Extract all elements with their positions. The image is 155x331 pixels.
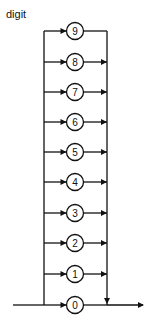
digit-label: 2 xyxy=(72,238,78,249)
merge-arrow-icon xyxy=(104,298,110,304)
digit-label: 5 xyxy=(72,147,78,158)
branch-out-arrow-icon xyxy=(101,89,107,95)
digit-label: 0 xyxy=(72,300,78,311)
branch-in-arrow-icon xyxy=(61,179,67,185)
branch-out-arrow-icon xyxy=(101,271,107,277)
branch-in-arrow-icon xyxy=(61,59,67,65)
syntax-diagram: 9876543210 xyxy=(0,0,155,331)
branch-in-arrow-icon xyxy=(61,302,67,308)
branch-out-arrow-icon xyxy=(101,149,107,155)
digit-label: 4 xyxy=(72,177,78,188)
digit-label: 1 xyxy=(72,269,78,280)
branch-out-arrow-icon xyxy=(101,179,107,185)
digit-label: 6 xyxy=(72,117,78,128)
digit-label: 3 xyxy=(72,208,78,219)
branch-in-arrow-icon xyxy=(61,149,67,155)
branch-out-arrow-icon xyxy=(101,59,107,65)
exit-arrow-icon xyxy=(138,302,144,308)
branch-in-arrow-icon xyxy=(61,240,67,246)
branch-out-arrow-icon xyxy=(101,240,107,246)
branch-out-arrow-icon xyxy=(101,210,107,216)
digit-label: 9 xyxy=(72,26,78,37)
digit-label: 8 xyxy=(72,57,78,68)
digit-label: 7 xyxy=(72,87,78,98)
branch-in-arrow-icon xyxy=(61,89,67,95)
branch-in-arrow-icon xyxy=(61,28,67,34)
branch-in-arrow-icon xyxy=(61,210,67,216)
branch-in-arrow-icon xyxy=(61,271,67,277)
branch-in-arrow-icon xyxy=(61,119,67,125)
branch-out-arrow-icon xyxy=(101,119,107,125)
